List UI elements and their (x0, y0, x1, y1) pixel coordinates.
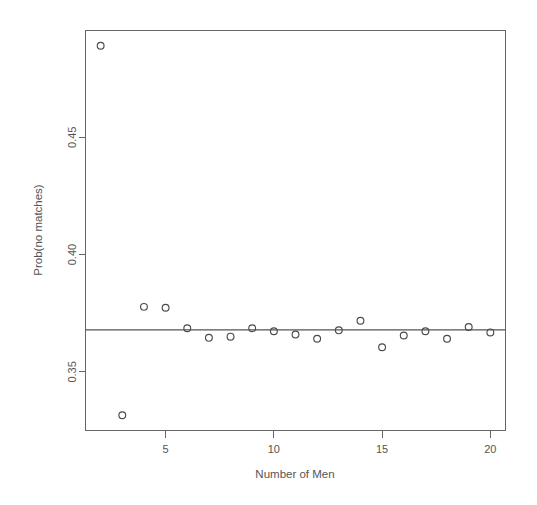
data-point-marker (444, 335, 451, 342)
data-point-marker (162, 304, 169, 311)
data-point-marker (206, 334, 213, 341)
data-point-marker (249, 325, 256, 332)
data-points (97, 42, 494, 418)
x-axis-title: Number of Men (255, 468, 334, 480)
data-point-marker (400, 332, 407, 339)
y-tick-label: 0.35 (66, 361, 78, 382)
y-tick-label: 0.45 (66, 127, 78, 148)
x-tick-label: 20 (484, 443, 496, 455)
data-point-marker (141, 303, 148, 310)
x-tick-label: 5 (163, 443, 169, 455)
data-point-marker (422, 328, 429, 335)
data-point-marker (357, 317, 364, 324)
plot-canvas: 5101520 0.350.400.45 Number of Men Prob(… (0, 0, 537, 505)
data-point-marker (292, 331, 299, 338)
plot-frame (86, 31, 506, 431)
data-point-marker (184, 325, 191, 332)
y-axis-title: Prob(no matches) (32, 184, 44, 276)
x-tick-label: 10 (268, 443, 280, 455)
scatter-plot-figure: 5101520 0.350.400.45 Number of Men Prob(… (0, 0, 537, 505)
data-point-marker (119, 412, 126, 419)
x-axis-ticks: 5101520 (163, 431, 497, 455)
data-point-marker (227, 333, 234, 340)
y-axis-ticks: 0.350.400.45 (66, 127, 85, 383)
data-point-marker (270, 328, 277, 335)
data-point-marker (97, 42, 104, 49)
data-point-marker (314, 335, 321, 342)
data-point-marker (379, 344, 386, 351)
y-tick-label: 0.40 (66, 244, 78, 265)
x-tick-label: 15 (376, 443, 388, 455)
